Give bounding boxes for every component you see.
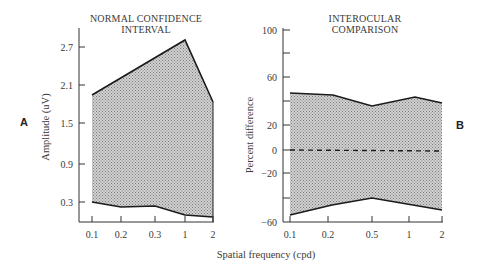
panel-a-x-tick-label: 0.2 xyxy=(115,229,128,240)
panel-a-y-tick-label: 2.1 xyxy=(61,80,74,91)
panel-b-x-tick-label: 0.1 xyxy=(284,229,297,240)
panel-a-y-tick-label: 2.7 xyxy=(61,42,74,53)
panel-b-y-ticks xyxy=(283,30,290,198)
panel-b-x-ticks xyxy=(290,216,442,222)
figure: NORMAL CONFIDENCE INTERVAL 2.7 2.1 1.5 0… xyxy=(0,0,478,272)
panel-b: INTEROCULAR COMPARISON 100 60 20 0 −20 −… xyxy=(244,13,464,240)
panel-b-x-tick-label: 2 xyxy=(440,229,445,240)
panel-b-letter: B xyxy=(456,119,464,131)
panel-b-y-axis-label: Percent difference xyxy=(244,96,255,173)
panel-b-zero-reference-line xyxy=(290,150,440,151)
panel-a-x-tick-label: 0.1 xyxy=(86,229,99,240)
panel-b-y-tick-label: −60 xyxy=(261,217,277,228)
panel-b-x-tick-label: 0.5 xyxy=(366,229,379,240)
panel-b-y-tick-label: −20 xyxy=(261,168,277,179)
panel-a-y-axis-label: Amplitude (uV) xyxy=(40,93,52,161)
panel-a-x-tick-label: 0.3 xyxy=(149,229,162,240)
panel-a: NORMAL CONFIDENCE INTERVAL 2.7 2.1 1.5 0… xyxy=(20,13,216,240)
panel-a-x-tick-label: 2 xyxy=(211,229,216,240)
panel-a-title-line2: INTERVAL xyxy=(121,24,171,35)
panel-a-confidence-band xyxy=(92,40,213,217)
panel-b-x-tick-label: 1 xyxy=(407,229,412,240)
panel-b-y-tick-label: 60 xyxy=(267,72,277,83)
panel-a-y-ticks xyxy=(79,47,85,202)
panel-a-title-line1: NORMAL CONFIDENCE xyxy=(90,13,202,24)
panel-b-y-tick-label: 20 xyxy=(267,120,277,131)
panel-a-y-tick-label: 0.9 xyxy=(61,159,74,170)
panel-b-x-tick-label: 0.2 xyxy=(322,229,335,240)
shared-x-axis-label: Spatial frequency (cpd) xyxy=(217,249,316,261)
panel-a-y-tick-label: 0.3 xyxy=(61,197,74,208)
panel-a-y-tick-label: 1.5 xyxy=(61,118,74,129)
panel-b-y-tick-label: 0 xyxy=(272,145,277,156)
panel-b-y-tick-label: 100 xyxy=(262,25,277,36)
panel-b-confidence-band xyxy=(290,93,442,215)
panel-a-x-ticks xyxy=(92,216,213,222)
panel-b-title-line2: COMPARISON xyxy=(332,24,399,35)
panel-a-letter: A xyxy=(20,116,28,128)
panel-a-x-tick-label: 1 xyxy=(183,229,188,240)
panel-b-title-line1: INTEROCULAR xyxy=(329,13,402,24)
